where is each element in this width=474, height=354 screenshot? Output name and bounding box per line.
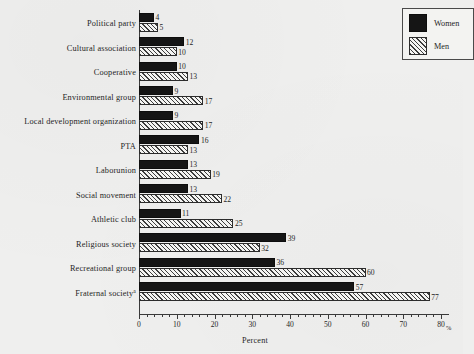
bar-value-label: 32: [261, 243, 269, 252]
x-tick-label: 20: [211, 320, 219, 329]
chart-row: Athletic club1125: [139, 207, 463, 232]
x-tick-minor: [192, 314, 193, 317]
bar-value-label: 13: [190, 160, 198, 169]
x-tick-minor: [381, 314, 382, 317]
category-label: Laborunion: [96, 166, 136, 175]
chart-row: Environmental group917: [139, 85, 463, 110]
x-tick-label: 50: [324, 320, 332, 329]
category-label: Political party: [87, 19, 136, 28]
bar-value-label: 17: [205, 121, 213, 130]
x-tick-minor: [162, 314, 163, 317]
x-tick-minor: [388, 314, 389, 317]
x-tick-minor: [245, 314, 246, 317]
x-tick-minor: [154, 314, 155, 317]
bar-women: 36: [139, 258, 275, 267]
x-tick-minor: [147, 314, 148, 317]
x-tick-minor: [237, 314, 238, 317]
legend-label-men: Men: [434, 42, 449, 51]
chart-row: Fraternal societya5777: [139, 281, 463, 306]
x-tick-minor: [199, 314, 200, 317]
x-tick-label: 30: [248, 320, 256, 329]
x-tick-major: [139, 314, 140, 319]
footnote-marker: a: [133, 287, 136, 293]
x-tick-minor: [343, 314, 344, 317]
x-tick-minor: [222, 314, 223, 317]
x-tick-minor: [426, 314, 427, 317]
x-tick-minor: [260, 314, 261, 317]
x-tick-minor: [358, 314, 359, 317]
chart-row: PTA1613: [139, 134, 463, 159]
bar-value-label: 9: [174, 86, 178, 95]
x-tick-minor: [335, 314, 336, 317]
bar-women: 11: [139, 209, 181, 218]
x-tick-minor: [275, 314, 276, 317]
bar-women: 13: [139, 160, 188, 169]
bar-women: 12: [139, 37, 184, 46]
bar-value-label: 60: [367, 268, 375, 277]
x-tick-minor: [230, 314, 231, 317]
bar-value-label: 10: [178, 47, 186, 56]
category-label: Cultural association: [67, 43, 136, 52]
bar-value-label: 5: [159, 23, 163, 32]
bar-value-label: 22: [224, 194, 232, 203]
x-tick-major: [252, 314, 253, 319]
category-label: Cooperative: [94, 68, 136, 77]
bar-value-label: 17: [205, 96, 213, 105]
x-tick-minor: [184, 314, 185, 317]
bar-men: 60: [139, 268, 366, 277]
x-tick-minor: [396, 314, 397, 317]
legend-swatch-women-icon: [409, 14, 427, 32]
category-label: Religious society: [76, 239, 136, 248]
x-tick-major: [290, 314, 291, 319]
bar-value-label: 36: [276, 258, 284, 267]
x-tick-major: [441, 314, 442, 319]
bar-value-label: 10: [178, 62, 186, 71]
bar-value-label: 19: [212, 170, 220, 179]
category-label: Recreational group: [70, 264, 136, 273]
x-tick-major: [328, 314, 329, 319]
category-label: Local development organization: [24, 117, 136, 126]
bar-women: 9: [139, 86, 173, 95]
x-tick-minor: [350, 314, 351, 317]
bar-men: 22: [139, 194, 222, 203]
bar-men: 77: [139, 292, 430, 301]
x-tick-minor: [411, 314, 412, 317]
bar-men: 17: [139, 96, 203, 105]
bar-men: 17: [139, 121, 203, 130]
chart-row: Local development organization917: [139, 109, 463, 134]
x-tick-label: 0: [137, 320, 141, 329]
bar-women: 57: [139, 282, 354, 291]
x-tick-minor: [207, 314, 208, 317]
chart-row: Cooperative1013: [139, 60, 463, 85]
bar-women: 13: [139, 184, 188, 193]
x-tick-minor: [305, 314, 306, 317]
bar-value-label: 77: [431, 292, 439, 301]
percent-sign-label: %: [446, 324, 451, 331]
x-tick-label: 60: [362, 320, 370, 329]
category-label: Environmental group: [62, 92, 136, 101]
x-tick-major: [177, 314, 178, 319]
bar-women: 39: [139, 233, 286, 242]
chart-row: Religious society3932: [139, 232, 463, 257]
x-tick-minor: [433, 314, 434, 317]
x-tick-minor: [373, 314, 374, 317]
legend-label-women: Women: [434, 19, 459, 28]
bar-men: 13: [139, 145, 188, 154]
bar-value-label: 13: [190, 184, 198, 193]
x-tick-minor: [169, 314, 170, 317]
chart-row: Laborunion1319: [139, 158, 463, 183]
bar-men: 10: [139, 47, 177, 56]
category-label: PTA: [121, 141, 136, 150]
bar-men: 13: [139, 72, 188, 81]
bar-value-label: 11: [182, 209, 189, 218]
x-axis-title: Percent: [242, 336, 268, 345]
bar-value-label: 13: [190, 72, 198, 81]
bar-value-label: 16: [201, 135, 209, 144]
bar-men: 5: [139, 23, 158, 32]
category-label: Fraternal societya: [75, 287, 136, 298]
legend-swatch-men-icon: [409, 37, 427, 55]
x-tick-major: [403, 314, 404, 319]
bar-women: 10: [139, 62, 177, 71]
bar-women: 9: [139, 111, 173, 120]
x-tick-minor: [282, 314, 283, 317]
